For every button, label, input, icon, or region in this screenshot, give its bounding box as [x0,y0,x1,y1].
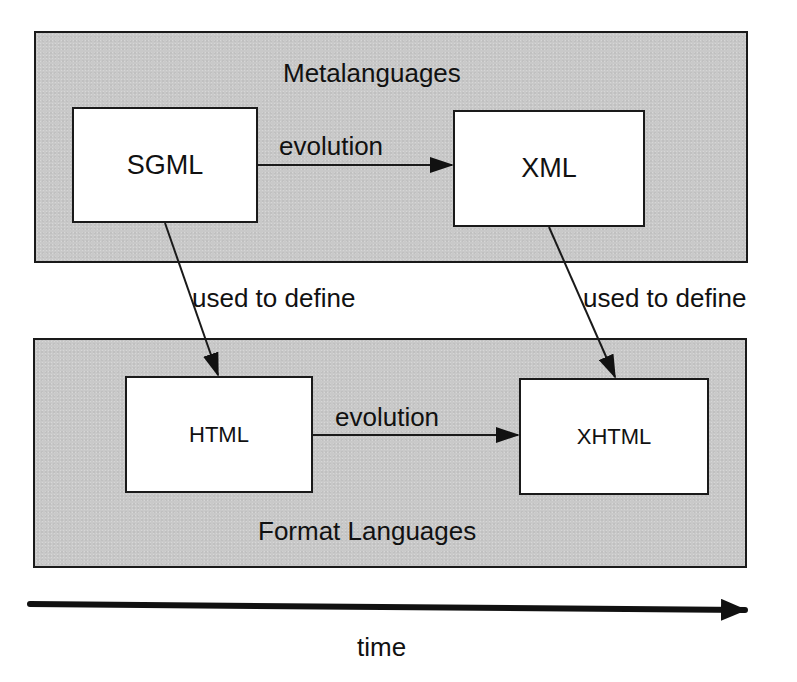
time-arrow [30,604,745,610]
used-to-define-arrow-left [165,223,218,375]
used-to-define-arrow-right [549,227,615,377]
edges-layer [0,0,797,682]
